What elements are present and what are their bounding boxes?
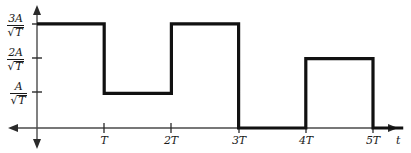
y-label-denominator: √T bbox=[8, 60, 24, 72]
y-axis-up-arrow bbox=[33, 5, 41, 15]
y-axis-down-arrow bbox=[33, 139, 41, 149]
sqrt-icon: √ bbox=[8, 60, 15, 73]
x-axis-name-label: t bbox=[396, 134, 400, 147]
y-axis-label-3a-over-sqrt-t: 3A √T bbox=[7, 13, 24, 38]
y-axis-label-2a-over-sqrt-t: 2A √T bbox=[7, 47, 24, 72]
plot-area bbox=[0, 0, 411, 153]
y-label-numerator: 2A bbox=[8, 47, 23, 59]
x-tick-label-4t: 4T bbox=[299, 134, 313, 147]
sqrt-icon: √ bbox=[11, 94, 18, 107]
y-label-denominator: √T bbox=[8, 26, 24, 38]
x-tick-label-t: T bbox=[100, 134, 107, 147]
x-tick-label-5t: 5T bbox=[366, 134, 380, 147]
y-axis-label-a-over-sqrt-t: A √T bbox=[10, 81, 27, 106]
sqrt-radicand: T bbox=[14, 27, 23, 38]
waveform-figure: 3A √T 2A √T A √T T 2T 3T 4T 5T t bbox=[0, 0, 411, 153]
x-tick-label-2t: 2T bbox=[164, 134, 178, 147]
y-label-denominator: √T bbox=[11, 94, 27, 106]
sqrt-radicand: T bbox=[17, 95, 26, 106]
sqrt-radicand: T bbox=[14, 61, 23, 72]
waveform-trace bbox=[37, 24, 403, 128]
x-axis-left-arrow bbox=[8, 124, 18, 132]
y-label-numerator: A bbox=[15, 81, 23, 93]
x-tick-label-3t: 3T bbox=[232, 134, 246, 147]
y-label-numerator: 3A bbox=[8, 13, 23, 25]
sqrt-icon: √ bbox=[8, 26, 15, 39]
